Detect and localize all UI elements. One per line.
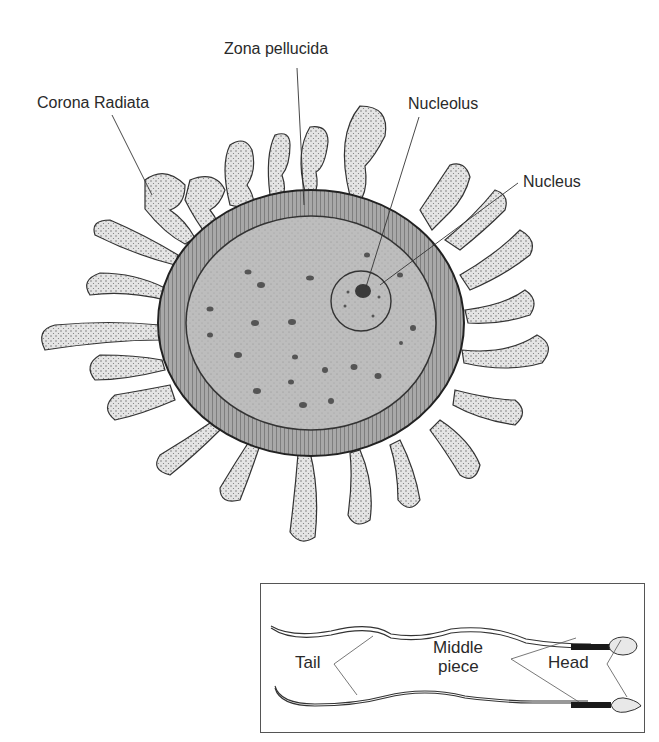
- head-upper: [609, 637, 637, 655]
- label-corona-radiata: Corona Radiata: [37, 95, 149, 111]
- label-nucleus: Nucleus: [523, 174, 581, 190]
- middle-piece-lower: [571, 702, 611, 708]
- nucleolus: [355, 284, 371, 298]
- label-middle-piece-line2: piece: [438, 658, 479, 676]
- cytoplasm: [186, 216, 436, 430]
- label-zona-pellucida: Zona pellucida: [224, 41, 328, 57]
- head-lower: [611, 698, 641, 713]
- sperm-inset: Tail Middle piece Head: [260, 583, 645, 733]
- label-head: Head: [548, 654, 589, 672]
- label-tail: Tail: [295, 654, 321, 672]
- label-nucleolus: Nucleolus: [408, 96, 478, 112]
- middle-piece-upper: [571, 644, 611, 650]
- label-middle-piece-line1: Middle: [433, 639, 483, 657]
